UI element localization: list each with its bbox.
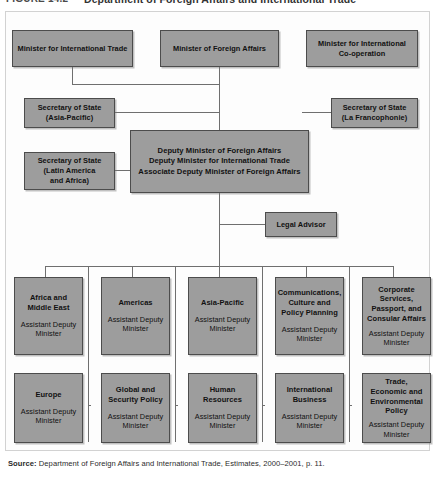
box-secretary-of-state-asia-pacific[interactable]: Secretary of State (Asia-Pacific) [24,98,115,128]
branch-subtitle-line-1: Minister [282,421,338,430]
branch-title-line-0: Asia-Pacific [201,298,244,308]
deputy-line-2: Associate Deputy Minister of Foreign Aff… [138,167,300,177]
connector-col5-drop [393,266,394,277]
box-branch-americas[interactable]: Americas Assistant Deputy Minister [101,277,170,355]
branch-title-line-3: Policy [370,406,423,416]
connector-row2-tie-1 [88,405,91,406]
branch-title: Trade, Economic and Environmental Policy [370,377,423,416]
branch-subtitle: Assistant Deputy Minister [21,320,77,339]
connector-foreign-affairs-trunk [219,67,220,130]
minister-intl-coop-line-1: Co-operation [339,49,386,59]
connector-col2-drop [132,266,133,277]
sos-asiapacific-line-1: (Asia-Pacific) [46,113,94,123]
branch-subtitle: Assistant Deputy Minister [195,315,251,334]
branch-subtitle-line-0: Assistant Deputy [282,412,338,421]
box-branch-communications-culture-policy-planning[interactable]: Communications, Culture and Policy Plann… [275,277,344,355]
branch-subtitle-line-0: Assistant Deputy [195,412,251,421]
sos-latinamerica-line-2: and Africa) [50,176,89,186]
box-legal-advisor[interactable]: Legal Advisor [265,212,337,237]
box-secretary-of-state-la-francophonie[interactable]: Secretary of State (La Francophonie) [331,98,418,128]
branch-subtitle: Assistant Deputy Minister [369,420,425,439]
branch-subtitle-line-0: Assistant Deputy [369,329,425,338]
connector-sep-row2-4 [349,356,350,442]
box-branch-africa-middle-east[interactable]: Africa and Middle East Assistant Deputy … [14,277,83,355]
connector-sep-3 [262,266,263,356]
branch-subtitle-line-0: Assistant Deputy [282,325,338,334]
branch-title-line-1: Services, [367,294,426,304]
branch-subtitle-line-1: Minister [282,334,338,343]
branch-title-line-2: Environmental [370,397,423,407]
connector-col4-drop [306,266,307,277]
org-chart-canvas: Minister for International Trade Ministe… [0,0,438,482]
connector-intl-trade-horizontal [72,84,220,85]
connector-legal-advisor [219,224,265,225]
branch-subtitle: Assistant Deputy Minister [369,329,425,348]
branch-title-line-1: Middle East [27,303,69,313]
source-caption: Source: Department of Foreign Affairs an… [8,459,325,468]
branch-title-line-0: Corporate [367,285,426,295]
branch-subtitle: Assistant Deputy Minister [282,325,338,344]
deputy-line-1: Deputy Minister for International Trade [149,156,290,166]
branch-title-line-1: Economic and [370,387,423,397]
box-minister-international-trade[interactable]: Minister for International Trade [12,30,133,67]
connector-intl-trade-stub [72,67,73,84]
branch-subtitle: Assistant Deputy Minister [195,412,251,431]
connector-sos-francophonie-vert [302,112,303,113]
connector-row2-tie-3 [262,405,265,406]
connector-sep-row2-3 [262,356,263,442]
box-deputy-minister-group[interactable]: Deputy Minister of Foreign Affairs Deput… [130,130,309,193]
branch-title: International Business [287,385,333,405]
branch-title-line-0: Global and [108,385,163,395]
branch-subtitle: Assistant Deputy Minister [282,412,338,431]
connector-col3-drop [219,266,220,277]
branch-subtitle-line-0: Assistant Deputy [369,420,425,429]
branch-title-line-2: Policy Planning [278,308,342,318]
box-branch-europe[interactable]: Europe Assistant Deputy Minister [14,373,83,443]
box-branch-asia-pacific[interactable]: Asia-Pacific Assistant Deputy Minister [188,277,257,355]
source-prefix: Source: [8,459,37,468]
sos-francophonie-line-1: (La Francophonie) [342,113,407,123]
branch-title-line-3: Consular Affairs [367,314,426,324]
branch-title: Americas [118,298,152,308]
sos-francophonie-line-0: Secretary of State [343,103,407,113]
branch-title: Asia-Pacific [201,298,244,308]
branch-title-line-0: Americas [118,298,152,308]
legal-advisor-label: Legal Advisor [276,220,325,230]
branch-subtitle-line-0: Assistant Deputy [21,320,77,329]
minister-intl-trade-line-0: Minister for International Trade [17,44,127,54]
branch-subtitle: Assistant Deputy Minister [108,315,164,334]
branch-title: Human Resources [203,385,242,405]
box-branch-trade-economic-environmental-policy[interactable]: Trade, Economic and Environmental Policy… [362,373,431,443]
branch-title-line-0: Trade, [370,377,423,387]
box-branch-human-resources[interactable]: Human Resources Assistant Deputy Ministe… [188,373,257,443]
connector-sep-2 [175,266,176,356]
sos-latinamerica-line-0: Secretary of State [38,156,102,166]
box-branch-global-security-policy[interactable]: Global and Security Policy Assistant Dep… [101,373,170,443]
connector-sos-francophonie [302,112,332,113]
branch-title: Global and Security Policy [108,385,163,405]
box-minister-foreign-affairs[interactable]: Minister of Foreign Affairs [160,30,279,67]
deputy-line-0: Deputy Minister of Foreign Affairs [158,146,282,156]
box-branch-international-business[interactable]: International Business Assistant Deputy … [275,373,344,443]
connector-sep-row2-1 [88,356,89,442]
box-branch-corporate-services-passport-consular-affairs[interactable]: Corporate Services, Passport, and Consul… [362,277,431,355]
branch-title-line-1: Business [287,395,333,405]
branch-subtitle-line-1: Minister [21,329,77,338]
sos-asiapacific-line-0: Secretary of State [38,103,102,113]
box-minister-international-cooperation[interactable]: Minister for International Co-operation [306,30,418,67]
branch-subtitle: Assistant Deputy Minister [108,412,164,431]
branch-subtitle-line-0: Assistant Deputy [108,412,164,421]
branch-title-line-1: Security Policy [108,395,163,405]
minister-intl-coop-line-0: Minister for International [318,39,406,49]
connector-sep-row2-2 [175,356,176,442]
branch-subtitle-line-1: Minister [195,421,251,430]
branch-title-line-0: International [287,385,333,395]
branch-subtitle-line-1: Minister [108,324,164,333]
branch-title-line-0: Africa and [27,293,69,303]
branch-title-line-0: Human [203,385,242,395]
branch-title-line-0: Communications, [278,288,342,298]
box-secretary-of-state-latin-america-africa[interactable]: Secretary of State (Latin America and Af… [24,152,115,190]
source-text: Department of Foreign Affairs and Intern… [39,459,325,468]
minister-foreign-affairs-line-0: Minister of Foreign Affairs [173,44,266,54]
branch-subtitle-line-1: Minister [369,430,425,439]
